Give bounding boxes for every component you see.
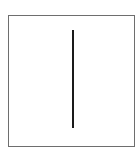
- vertical-line: [72, 30, 74, 128]
